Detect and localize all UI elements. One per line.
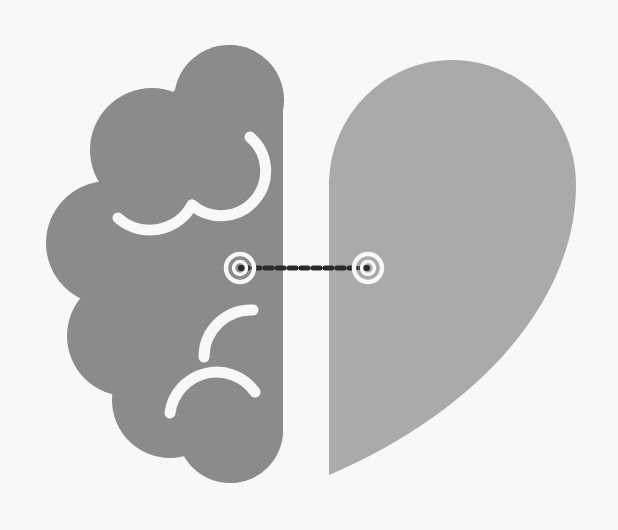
- illustration-canvas: Brain and heart connected: [0, 0, 618, 530]
- brain-heart-illustration: [0, 0, 618, 530]
